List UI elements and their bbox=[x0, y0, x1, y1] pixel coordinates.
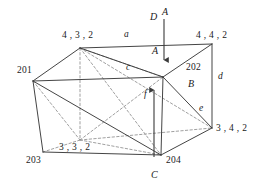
vertex-label-202: 202 bbox=[186, 63, 201, 73]
vertex-label-201: 201 bbox=[17, 66, 32, 76]
force-label-A-top: A bbox=[162, 7, 168, 17]
wireframe-diagram: 4 , 3 , 2 4 , 4 , 2 201 202 3 , 4 , 2 3 … bbox=[0, 0, 253, 185]
face-label-B: B bbox=[188, 79, 194, 89]
force-label-A-mid: A bbox=[152, 46, 158, 56]
visible-edge bbox=[33, 81, 161, 155]
visible-edge bbox=[33, 48, 80, 81]
edge-label-d: d bbox=[218, 72, 223, 82]
visible-edge bbox=[80, 48, 163, 77]
vertex-label-4-3-2: 4 , 3 , 2 bbox=[62, 31, 93, 41]
hidden-edge bbox=[80, 48, 161, 155]
vertex-label-203: 203 bbox=[26, 156, 41, 166]
force-label-D: D bbox=[150, 12, 157, 22]
force-label-C: C bbox=[151, 170, 158, 180]
vertex-label-3-4-2: 3 , 4 , 2 bbox=[216, 124, 247, 134]
edge-label-e: e bbox=[199, 104, 203, 114]
edge-label-c: c bbox=[126, 63, 130, 73]
vertex-label-3-3-2: 3 , 3 , 2 bbox=[59, 143, 90, 153]
vertex-label-204: 204 bbox=[166, 156, 181, 166]
vertex-label-4-4-2: 4 , 4 , 2 bbox=[196, 31, 227, 41]
hidden-edge bbox=[80, 77, 163, 140]
edge-label-a: a bbox=[124, 30, 129, 40]
visible-edge bbox=[161, 77, 163, 155]
visible-edge bbox=[80, 44, 212, 48]
edge-label-f: f bbox=[144, 90, 147, 100]
visible-edge bbox=[33, 77, 163, 81]
visible-edges bbox=[33, 44, 212, 155]
